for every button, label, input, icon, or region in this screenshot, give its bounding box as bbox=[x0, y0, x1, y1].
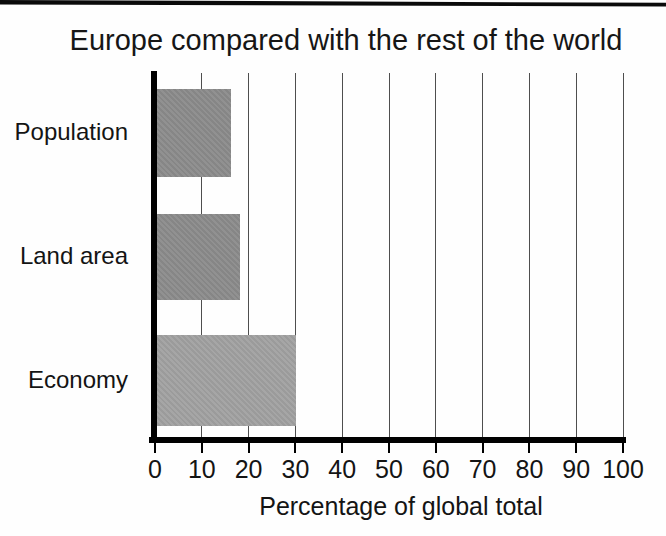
bar-economy bbox=[156, 335, 296, 426]
category-label-economy: Economy bbox=[0, 366, 128, 394]
y-axis-line bbox=[151, 71, 157, 443]
scan-artifact-line bbox=[0, 0, 666, 8]
x-tick-label-70: 70 bbox=[469, 455, 497, 484]
x-tick-60 bbox=[435, 443, 437, 453]
gridline-70 bbox=[482, 73, 483, 438]
x-tick-20 bbox=[248, 443, 250, 453]
x-tick-label-30: 30 bbox=[281, 455, 309, 484]
x-tick-label-0: 0 bbox=[148, 455, 162, 484]
chart-title: Europe compared with the rest of the wor… bbox=[36, 24, 656, 57]
x-axis-label: Percentage of global total bbox=[167, 492, 635, 521]
gridline-50 bbox=[389, 73, 390, 438]
gridline-80 bbox=[529, 73, 530, 438]
bar-land-area bbox=[156, 214, 240, 300]
chart-figure: Europe compared with the rest of the wor… bbox=[0, 0, 666, 536]
x-tick-label-40: 40 bbox=[328, 455, 356, 484]
x-tick-10 bbox=[201, 443, 203, 453]
gridline-40 bbox=[342, 73, 343, 438]
x-tick-0 bbox=[154, 443, 156, 453]
x-tick-70 bbox=[482, 443, 484, 453]
x-tick-40 bbox=[341, 443, 343, 453]
gridline-100 bbox=[623, 73, 624, 438]
plot-area bbox=[155, 72, 623, 438]
category-label-population: Population bbox=[0, 118, 128, 146]
bar-population bbox=[156, 89, 231, 177]
x-tick-label-100: 100 bbox=[602, 455, 644, 484]
x-tick-label-10: 10 bbox=[188, 455, 216, 484]
x-tick-label-60: 60 bbox=[422, 455, 450, 484]
category-label-land-area: Land area bbox=[0, 242, 128, 270]
x-tick-30 bbox=[294, 443, 296, 453]
gridline-90 bbox=[576, 73, 577, 438]
x-tick-label-20: 20 bbox=[235, 455, 263, 484]
x-tick-label-80: 80 bbox=[515, 455, 543, 484]
x-tick-50 bbox=[388, 443, 390, 453]
gridline-60 bbox=[435, 73, 436, 438]
x-tick-label-90: 90 bbox=[562, 455, 590, 484]
x-tick-100 bbox=[622, 443, 624, 453]
x-tick-label-50: 50 bbox=[375, 455, 403, 484]
x-tick-80 bbox=[528, 443, 530, 453]
x-tick-90 bbox=[575, 443, 577, 453]
